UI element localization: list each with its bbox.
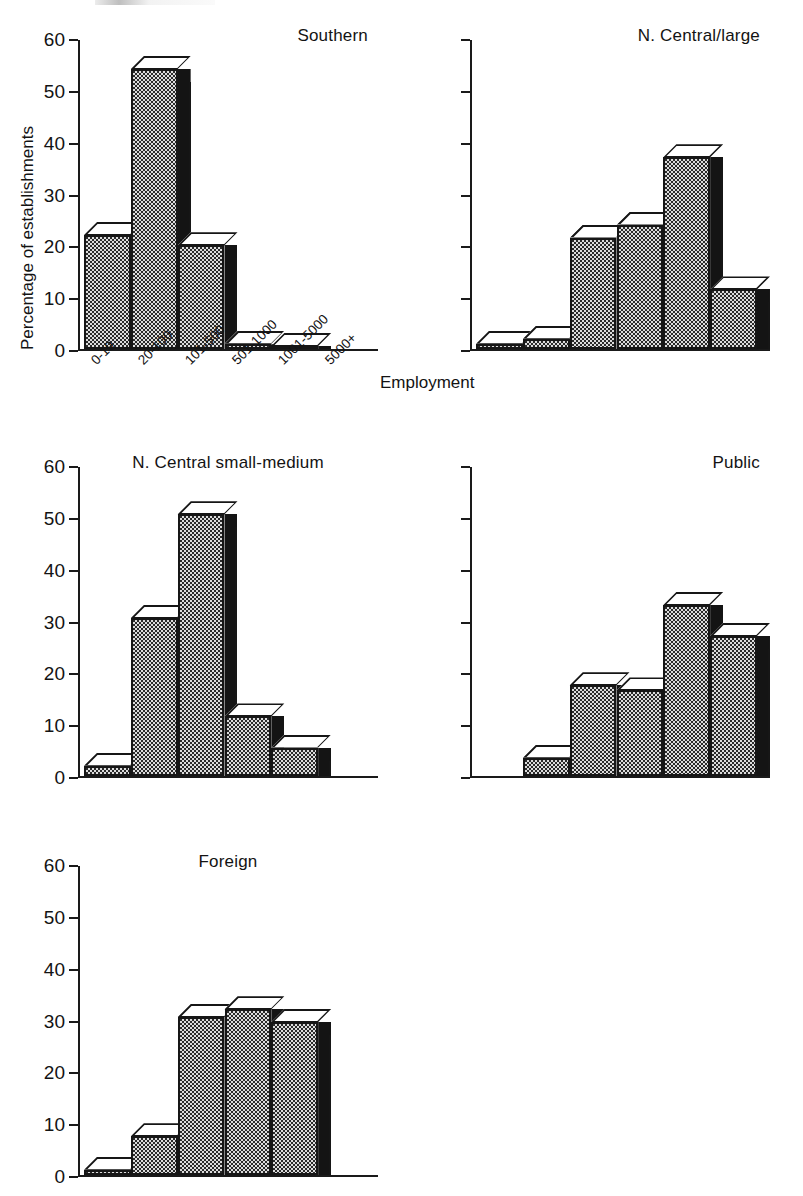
y-axis-tick xyxy=(69,350,78,352)
plot-area: 0102030405060 xyxy=(78,467,378,778)
y-axis-tick xyxy=(69,622,78,624)
y-axis-tick xyxy=(461,143,470,145)
y-axis-tick-label: 30 xyxy=(44,611,65,633)
y-axis xyxy=(78,467,80,778)
x-axis xyxy=(78,1175,378,1177)
bar xyxy=(131,618,178,776)
bar-top-face xyxy=(663,144,723,157)
y-axis-tick-label: 0 xyxy=(54,340,65,362)
plot-area: 0102030405060 xyxy=(78,866,378,1177)
bar-side-outline xyxy=(768,649,770,776)
y-axis-tick xyxy=(461,298,470,300)
bar xyxy=(710,636,757,776)
bar-side-outline xyxy=(329,761,331,777)
y-axis-tick xyxy=(461,570,470,572)
bar xyxy=(663,605,710,776)
bar-top-face xyxy=(570,672,630,685)
bar-top-face xyxy=(225,996,285,1009)
bar-top-face xyxy=(663,592,723,605)
bar xyxy=(225,716,272,776)
bar xyxy=(523,758,570,776)
y-axis-tick xyxy=(69,777,78,779)
y-axis-tick xyxy=(69,246,78,248)
y-axis-tick xyxy=(69,969,78,971)
y-axis-tick xyxy=(461,466,470,468)
y-axis-tick xyxy=(461,39,470,41)
scan-artifact xyxy=(95,0,215,5)
bar xyxy=(84,766,131,776)
y-axis-tick-label: 60 xyxy=(44,456,65,478)
y-axis-tick xyxy=(461,350,470,352)
y-axis-tick-label: 50 xyxy=(44,80,65,102)
y-axis-tick xyxy=(69,518,78,520)
y-axis-tick xyxy=(461,91,470,93)
bar xyxy=(84,1170,131,1175)
y-axis-tick-label: 20 xyxy=(44,1062,65,1084)
y-axis-tick xyxy=(461,777,470,779)
plot-area xyxy=(470,467,770,778)
y-axis-tick xyxy=(69,1124,78,1126)
y-axis-tick-label: 0 xyxy=(54,1166,65,1188)
y-axis xyxy=(470,40,472,351)
y-axis-tick-label: 50 xyxy=(44,906,65,928)
chart-figure: Southern01020304050600-1920-100101-50050… xyxy=(0,0,803,1196)
bar-top-face xyxy=(131,56,191,69)
bar xyxy=(225,1009,272,1175)
bar xyxy=(570,685,617,776)
y-axis xyxy=(78,866,80,1177)
bar xyxy=(476,344,523,349)
plot-area xyxy=(470,40,770,351)
y-axis-tick-label: 10 xyxy=(44,1114,65,1136)
y-axis-tick xyxy=(461,518,470,520)
y-axis-tick-label: 20 xyxy=(44,236,65,258)
y-axis-tick xyxy=(69,917,78,919)
y-axis-tick-label: 30 xyxy=(44,1010,65,1032)
bar xyxy=(523,339,570,349)
y-axis xyxy=(470,467,472,778)
y-axis-tick-label: 20 xyxy=(44,663,65,685)
y-axis-tick xyxy=(69,466,78,468)
x-axis xyxy=(470,349,770,351)
chart-panel: Foreign0102030405060 xyxy=(18,850,398,1196)
y-axis-tick xyxy=(69,725,78,727)
y-axis-tick-label: 60 xyxy=(44,855,65,877)
y-axis-tick-label: 30 xyxy=(44,184,65,206)
y-axis-tick xyxy=(461,622,470,624)
bar xyxy=(84,235,131,349)
chart-panel: Public xyxy=(410,451,790,844)
chart-panel: N. Central small-medium0102030405060 xyxy=(18,451,398,844)
y-axis-tick-label: 60 xyxy=(44,29,65,51)
bar xyxy=(271,748,318,777)
bar xyxy=(617,690,664,776)
y-axis-tick xyxy=(69,298,78,300)
y-axis-tick-label: 10 xyxy=(44,288,65,310)
y-axis-tick xyxy=(69,1072,78,1074)
y-axis-tick xyxy=(69,865,78,867)
bar xyxy=(570,238,617,349)
bar xyxy=(271,1022,318,1175)
y-axis-tick xyxy=(461,725,470,727)
y-axis-tick xyxy=(69,1176,78,1178)
y-axis-tick xyxy=(69,91,78,93)
bar xyxy=(178,514,225,776)
bar xyxy=(131,69,178,349)
y-axis-tick xyxy=(69,195,78,197)
y-axis-tick-label: 10 xyxy=(44,715,65,737)
y-axis-tick xyxy=(69,1021,78,1023)
y-axis-tick xyxy=(69,143,78,145)
y-axis-tick xyxy=(69,570,78,572)
bar-top-face xyxy=(178,501,238,514)
plot-area: 0102030405060 xyxy=(78,40,378,351)
y-axis-tick xyxy=(461,246,470,248)
y-axis xyxy=(78,40,80,351)
bar xyxy=(663,157,710,349)
x-axis xyxy=(78,776,378,778)
bar xyxy=(617,225,664,349)
bar xyxy=(178,1017,225,1175)
bar xyxy=(131,1136,178,1175)
bar-side-outline xyxy=(329,1035,331,1175)
y-axis-title: Percentage of establishments xyxy=(18,126,38,350)
y-axis-tick xyxy=(69,39,78,41)
y-axis-tick-label: 40 xyxy=(44,559,65,581)
chart-panel: N. Central/large xyxy=(410,24,790,417)
